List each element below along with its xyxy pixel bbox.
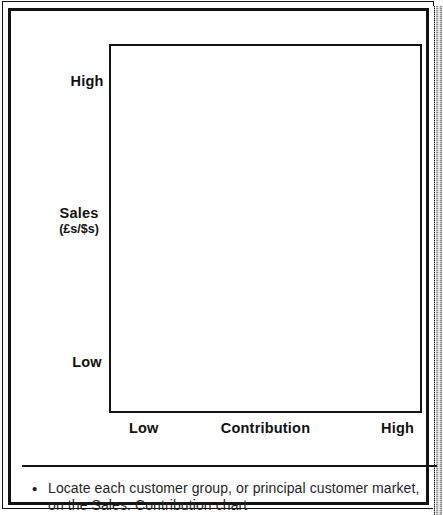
x-axis-title: Contribution <box>109 420 422 436</box>
content-frame: High Sales (£s/$s) Low Low Contribution … <box>8 8 429 505</box>
bullet-icon: • <box>32 480 48 498</box>
y-axis-units-label: (£s/$s) <box>40 221 118 237</box>
section-divider <box>22 465 437 467</box>
instruction-note-text: Locate each customer group, or principal… <box>48 480 423 514</box>
y-axis-title: Sales (£s/$s) <box>40 205 118 237</box>
chart-plot-area[interactable] <box>109 44 422 413</box>
sales-contribution-chart: High Sales (£s/$s) Low Low Contribution … <box>22 22 437 465</box>
x-axis-high-label: High <box>381 420 414 436</box>
x-axis-labels: Low Contribution High <box>109 420 422 442</box>
page: High Sales (£s/$s) Low Low Contribution … <box>0 0 443 515</box>
y-axis-title-text: Sales <box>60 205 99 221</box>
instruction-note: • Locate each customer group, or princip… <box>22 471 437 513</box>
